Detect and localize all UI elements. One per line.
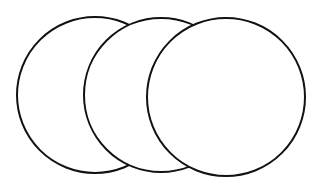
right-circle: [147, 18, 305, 176]
circle-group: [17, 17, 305, 176]
three-overlapping-circles-diagram: [0, 0, 321, 183]
